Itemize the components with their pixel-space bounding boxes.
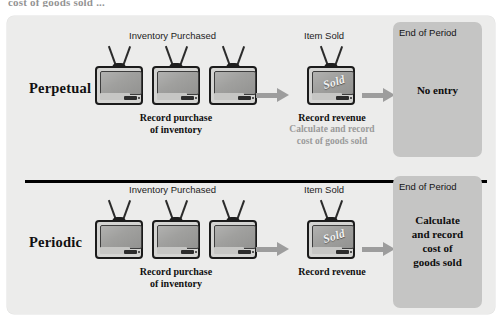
tv-controls	[336, 250, 349, 254]
tv-body: Sold	[307, 66, 355, 105]
caption-cogs-gray-line2-perpetual: cost of goods sold	[275, 136, 389, 148]
tv-controls	[238, 96, 251, 100]
arrow-inventory-to-sold-periodic	[256, 242, 290, 256]
column-header-inventory-purchased-perpetual: Inventory Purchased	[129, 30, 216, 41]
method-label-periodic: Periodic	[29, 234, 82, 251]
tv-body	[152, 66, 200, 105]
tv-screen	[214, 71, 256, 95]
tv-icon-inventory-3-periodic	[209, 199, 257, 259]
caption-cogs-gray-line1-perpetual: Calculate and record	[275, 124, 389, 136]
diagram-panel: Perpetual Inventory Purchased	[7, 16, 495, 314]
caption-record-purchase-line1-periodic: Record purchase	[117, 266, 235, 278]
tv-screen	[214, 225, 256, 249]
tv-screen: Sold	[312, 71, 354, 95]
tv-icon-inventory-2-periodic	[152, 199, 200, 259]
caption-record-purchase-line1-perpetual: Record purchase	[117, 112, 235, 124]
tv-screen	[100, 225, 142, 249]
tv-body	[152, 220, 200, 259]
tv-icon-inventory-2-perpetual	[152, 45, 200, 105]
tv-screen	[157, 225, 199, 249]
tv-controls	[238, 250, 251, 254]
arrow-inventory-to-sold-perpetual	[256, 88, 290, 102]
tv-controls	[124, 250, 137, 254]
method-label-perpetual: Perpetual	[29, 80, 91, 97]
end-of-period-label-perpetual: End of Period	[399, 27, 457, 38]
tv-body	[209, 66, 257, 105]
tv-body	[95, 220, 143, 259]
arrow-sold-to-eop-perpetual	[362, 88, 396, 102]
tv-icon-item-sold-perpetual: Sold	[307, 45, 355, 105]
end-of-period-text-periodic-line2: and record	[393, 227, 482, 241]
end-of-period-text-periodic-line1: Calculate	[393, 213, 482, 227]
caption-record-purchase-line2-periodic: of inventory	[117, 278, 235, 290]
end-of-period-label-periodic: End of Period	[399, 181, 457, 192]
tv-screen	[100, 71, 142, 95]
column-header-item-sold-periodic: Item Sold	[304, 184, 344, 195]
column-header-inventory-purchased-periodic: Inventory Purchased	[129, 184, 216, 195]
tv-controls	[336, 96, 349, 100]
tv-icon-item-sold-periodic: Sold	[307, 199, 355, 259]
tv-icon-inventory-3-perpetual	[209, 45, 257, 105]
caption-record-purchase-line2-perpetual: of inventory	[117, 124, 235, 136]
tv-controls	[181, 96, 194, 100]
tv-body	[95, 66, 143, 105]
end-of-period-text-periodic-line3: cost of	[393, 241, 482, 255]
tv-icon-inventory-1-perpetual	[95, 45, 143, 105]
tv-controls	[181, 250, 194, 254]
end-of-period-text-periodic-line4: goods sold	[393, 255, 482, 269]
caption-record-revenue-perpetual: Record revenue	[279, 112, 385, 124]
caption-record-revenue-periodic: Record revenue	[279, 266, 385, 278]
tv-screen	[157, 71, 199, 95]
end-of-period-text-perpetual: No entry	[393, 83, 482, 97]
arrow-sold-to-eop-periodic	[362, 242, 396, 256]
column-header-item-sold-perpetual: Item Sold	[304, 30, 344, 41]
tv-icon-inventory-1-periodic	[95, 199, 143, 259]
tv-body: Sold	[307, 220, 355, 259]
tv-controls	[124, 96, 137, 100]
tv-body	[209, 220, 257, 259]
truncated-caption-sliver: cost of goods sold ...	[8, 0, 428, 7]
tv-screen: Sold	[312, 225, 354, 249]
